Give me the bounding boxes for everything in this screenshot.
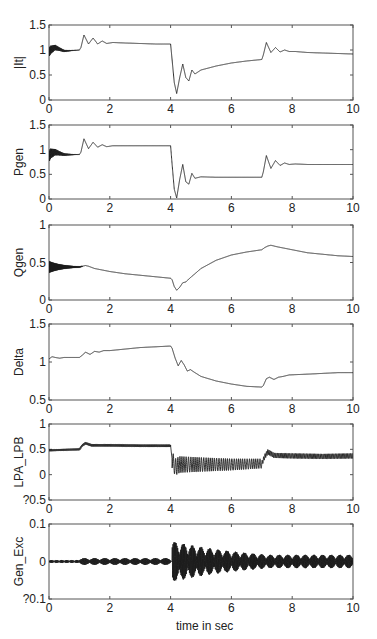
y-tick-label: 0.5 bbox=[29, 256, 46, 270]
y-axis-label: Gen_Exc bbox=[12, 537, 26, 586]
y-tick-label: 0.5 bbox=[29, 167, 46, 181]
figure: 024681000.511.5|It|024681000.511.5Pgen02… bbox=[0, 0, 377, 639]
data-line bbox=[49, 139, 353, 198]
y-tick-label: 1.5 bbox=[29, 118, 46, 132]
x-tick-label: 8 bbox=[289, 601, 296, 615]
x-tick-label: 0 bbox=[46, 601, 53, 615]
axes-box bbox=[49, 125, 353, 199]
y-tick-label: 0 bbox=[39, 555, 46, 569]
x-tick-label: 6 bbox=[228, 402, 235, 416]
x-axis-label: time in sec bbox=[176, 619, 233, 633]
stacked-time-series-chart: 024681000.511.5|It|024681000.511.5Pgen02… bbox=[0, 0, 377, 639]
x-tick-label: 4 bbox=[167, 302, 174, 316]
y-axis-label: Pgen bbox=[12, 148, 26, 176]
x-tick-label: 4 bbox=[167, 502, 174, 516]
subplot-it: 024681000.511.5|It| bbox=[12, 18, 360, 116]
x-tick-label: 8 bbox=[289, 201, 296, 215]
x-tick-label: 4 bbox=[167, 102, 174, 116]
x-tick-label: 10 bbox=[346, 302, 360, 316]
y-tick-label: ?0.5 bbox=[23, 493, 47, 507]
x-tick-label: 8 bbox=[289, 502, 296, 516]
y-tick-label: 1 bbox=[39, 218, 46, 232]
y-tick-label: ?0.1 bbox=[23, 592, 47, 606]
x-tick-label: 2 bbox=[106, 102, 113, 116]
y-tick-label: 1.5 bbox=[29, 317, 46, 331]
x-tick-label: 0 bbox=[46, 402, 53, 416]
x-tick-label: 6 bbox=[228, 201, 235, 215]
x-tick-label: 10 bbox=[346, 402, 360, 416]
x-tick-label: 6 bbox=[228, 502, 235, 516]
subplot-pgen: 024681000.511.5Pgen bbox=[12, 118, 360, 215]
y-tick-label: 1 bbox=[39, 417, 46, 431]
data-line bbox=[49, 542, 353, 580]
subplot-delta: 02468100.511.5Delta bbox=[12, 317, 360, 416]
y-axis-label: Qgen bbox=[12, 248, 26, 277]
y-tick-label: 0.5 bbox=[29, 68, 46, 82]
x-tick-label: 8 bbox=[289, 102, 296, 116]
axes-box bbox=[49, 225, 353, 300]
data-line bbox=[49, 245, 353, 290]
y-tick-label: 0.1 bbox=[29, 517, 46, 531]
data-line bbox=[49, 35, 353, 94]
x-tick-label: 2 bbox=[106, 601, 113, 615]
x-tick-label: 0 bbox=[46, 502, 53, 516]
axes-box bbox=[49, 25, 353, 100]
y-tick-label: 0 bbox=[39, 468, 46, 482]
y-tick-label: 0 bbox=[39, 192, 46, 206]
y-axis-label: Delta bbox=[12, 348, 26, 376]
y-axis-label: |It| bbox=[12, 56, 26, 69]
x-tick-label: 2 bbox=[106, 201, 113, 215]
x-tick-label: 8 bbox=[289, 402, 296, 416]
x-tick-label: 8 bbox=[289, 302, 296, 316]
x-tick-label: 10 bbox=[346, 102, 360, 116]
data-line bbox=[49, 442, 353, 474]
x-tick-label: 6 bbox=[228, 601, 235, 615]
y-tick-label: 0 bbox=[39, 293, 46, 307]
subplot-qgen: 024681000.51Qgen bbox=[12, 218, 360, 316]
y-tick-label: 0.5 bbox=[29, 393, 46, 407]
x-tick-label: 10 bbox=[346, 502, 360, 516]
subplot-gen_exc: 0246810?0.100.1Gen_Exc bbox=[12, 517, 360, 615]
y-tick-label: 1 bbox=[39, 43, 46, 57]
y-tick-label: 0 bbox=[39, 93, 46, 107]
subplot-lpa_lpb: 0246810?0.500.51LPA_LPB bbox=[12, 417, 360, 516]
y-tick-label: 1 bbox=[39, 143, 46, 157]
y-tick-label: 1 bbox=[39, 355, 46, 369]
x-tick-label: 10 bbox=[346, 201, 360, 215]
x-tick-label: 0 bbox=[46, 102, 53, 116]
data-line bbox=[49, 346, 353, 387]
x-tick-label: 10 bbox=[346, 601, 360, 615]
x-tick-label: 2 bbox=[106, 302, 113, 316]
axes-box bbox=[49, 324, 353, 400]
x-tick-label: 6 bbox=[228, 102, 235, 116]
x-tick-label: 0 bbox=[46, 302, 53, 316]
x-tick-label: 4 bbox=[167, 201, 174, 215]
x-tick-label: 2 bbox=[106, 402, 113, 416]
x-tick-label: 2 bbox=[106, 502, 113, 516]
y-axis-label: LPA_LPB bbox=[12, 436, 26, 487]
x-tick-label: 4 bbox=[167, 601, 174, 615]
x-tick-label: 0 bbox=[46, 201, 53, 215]
x-tick-label: 4 bbox=[167, 402, 174, 416]
y-tick-label: 0.5 bbox=[29, 442, 46, 456]
y-tick-label: 1.5 bbox=[29, 18, 46, 32]
x-tick-label: 6 bbox=[228, 302, 235, 316]
